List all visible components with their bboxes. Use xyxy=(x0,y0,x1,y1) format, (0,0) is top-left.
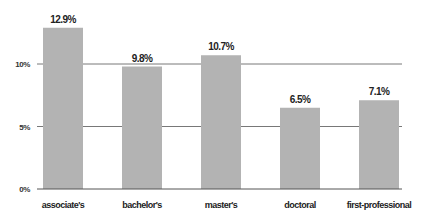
y-tick-label: 5% xyxy=(19,123,30,132)
y-tick-label: 10% xyxy=(15,60,30,69)
bar-master-s xyxy=(201,55,241,189)
y-tick-label: 0% xyxy=(19,185,30,194)
value-label: 9.8% xyxy=(132,53,153,64)
bar-first-professional xyxy=(359,100,399,189)
category-label: first-professional xyxy=(347,200,412,210)
category-label: associate's xyxy=(42,200,85,210)
bar-bachelor-s xyxy=(122,67,162,190)
value-label: 12.9% xyxy=(50,14,76,25)
bar-associate-s xyxy=(43,28,83,189)
value-label: 10.7% xyxy=(208,41,234,52)
bar-chart: 0%5%10% 12.9%9.8%10.7%6.5%7.1% associate… xyxy=(0,0,423,217)
bar-doctoral xyxy=(280,108,320,189)
category-label: doctoral xyxy=(284,200,316,210)
category-label: bachelor's xyxy=(122,200,162,210)
value-label: 6.5% xyxy=(290,94,311,105)
x-axis-labels: associate'sbachelor'smaster'sdoctoralfir… xyxy=(42,200,412,210)
value-label: 7.1% xyxy=(369,86,390,97)
y-axis-ticks: 0%5%10% xyxy=(15,60,30,194)
category-label: master's xyxy=(205,200,238,210)
